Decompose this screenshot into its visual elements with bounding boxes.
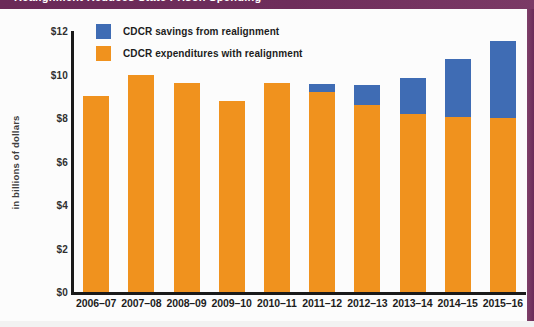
chart-page: Realignment Reduces State Prison Spendin… (0, 0, 534, 327)
chart-legend: CDCR savings from realignment CDCR expen… (96, 21, 356, 65)
x-tick-label: 2015–16 (483, 297, 523, 309)
bottom-edge-decoration (0, 321, 534, 327)
bar-column (400, 31, 426, 292)
y-tick-label: $10 (6, 69, 68, 80)
x-tick-label: 2008–09 (166, 297, 206, 309)
x-tick-label: 2010–11 (257, 297, 297, 309)
bar-column (219, 31, 245, 292)
x-tick-label: 2012–13 (347, 297, 387, 309)
legend-item-expenditures: CDCR expenditures with realignment (96, 43, 356, 63)
right-edge-decoration (527, 9, 534, 327)
banner-title: Realignment Reduces State Prison Spendin… (14, 0, 262, 3)
y-tick-label: $4 (6, 200, 68, 211)
page-banner: Realignment Reduces State Prison Spendin… (0, 0, 534, 9)
y-tick-label: $2 (6, 243, 68, 254)
bar-column (128, 31, 154, 292)
legend-swatch-savings (96, 24, 111, 39)
bar-segment-expenditures (264, 83, 290, 292)
bar-segment-expenditures (445, 117, 471, 292)
bar-column (264, 31, 290, 292)
y-tick-label: $0 (6, 287, 68, 298)
bar-column (309, 31, 335, 292)
bar-segment-savings (445, 59, 471, 117)
x-axis-line (71, 292, 526, 295)
y-tick-label: $8 (6, 113, 68, 124)
bar-segment-expenditures (83, 96, 109, 292)
x-axis-ticks: 2006–072007–082008–092009–102010–112011–… (74, 297, 526, 319)
x-tick-label: 2013–14 (392, 297, 432, 309)
bar-column (83, 31, 109, 292)
x-tick-label: 2006–07 (76, 297, 116, 309)
x-tick-label: 2014–15 (438, 297, 478, 309)
y-tick-label: $6 (6, 156, 68, 167)
legend-label-savings: CDCR savings from realignment (123, 26, 279, 37)
x-tick-label: 2009–10 (212, 297, 252, 309)
x-tick-label: 2011–12 (302, 297, 342, 309)
bar-segment-expenditures (219, 101, 245, 292)
bar-segment-savings (354, 85, 380, 105)
bar-segment-expenditures (354, 105, 380, 292)
bar-segment-savings (309, 84, 335, 92)
bar-column (445, 31, 471, 292)
legend-label-expenditures: CDCR expenditures with realignment (123, 48, 303, 59)
y-axis-ticks: $0$2$4$6$8$10$12 (0, 9, 68, 327)
bar-segment-expenditures (309, 92, 335, 292)
legend-swatch-expenditures (96, 46, 111, 61)
bar-segment-expenditures (128, 75, 154, 293)
bar-column (354, 31, 380, 292)
bar-segment-expenditures (490, 118, 516, 292)
y-tick-label: $12 (6, 26, 68, 37)
bar-segment-expenditures (174, 83, 200, 292)
bar-segment-expenditures (400, 114, 426, 292)
bar-column (490, 31, 516, 292)
bar-segment-savings (400, 78, 426, 114)
bar-column (174, 31, 200, 292)
bar-segment-savings (490, 41, 516, 118)
x-tick-label: 2007–08 (121, 297, 161, 309)
chart-area: in billions of dollars $0$2$4$6$8$10$12 … (0, 9, 527, 327)
legend-item-savings: CDCR savings from realignment (96, 21, 356, 41)
plot-bars (74, 31, 526, 292)
